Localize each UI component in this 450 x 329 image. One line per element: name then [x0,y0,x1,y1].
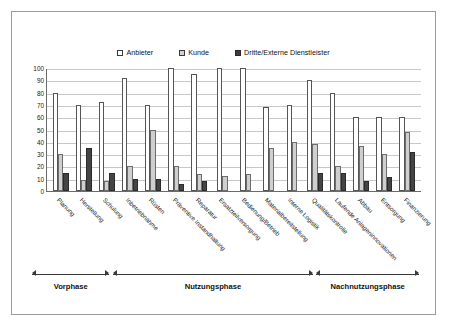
x-tick: Herstellung [71,195,94,273]
x-tick-label: Finanzierung [403,197,433,227]
y-tick-60: 60 [37,115,44,121]
x-tick: Inbetriebnahme [118,195,141,273]
phase-arrow-right-icon [415,270,419,276]
phase-label: Vorphase [54,282,88,291]
y-tick-0: 0 [40,189,44,195]
x-tick: Planung [48,195,71,273]
phase-arrow-left-icon [316,270,320,276]
phase-line [316,274,419,275]
bar-group [118,69,141,191]
bar-anbieter [217,68,222,191]
x-tick: Schulung [94,195,117,273]
bar-group [327,69,350,191]
y-axis-tick-labels: 1009080706050403020100 [20,69,44,192]
y-tick-100: 100 [33,66,44,72]
bar-group [95,69,118,191]
y-tick-50: 50 [37,127,44,133]
phase-line [32,274,109,275]
bar-group [142,69,165,191]
y-tick-30: 30 [37,152,44,158]
bar-dritte-externe-dienstleister [410,152,415,191]
x-tick: Abbau [349,195,372,273]
phase-label: Nachnutzungsphase [331,282,405,291]
y-tick-40: 40 [37,140,44,146]
bar-group [211,69,234,191]
legend-label-dritte: Dritte/Externe Dienstleister [244,48,329,57]
bar-groups [47,69,421,191]
legend-item-dritte: Dritte/Externe Dienstleister [235,48,329,57]
legend-swatch-kunde [179,50,185,56]
phase-arrow-right-icon [309,270,313,276]
bar-group [165,69,188,191]
legend-swatch-anbieter [117,50,123,56]
bar-group [280,69,303,191]
phase-arrow-left-icon [113,270,117,276]
phase-labels: VorphaseNutzungsphaseNachnutzungsphase [32,282,419,294]
x-tick: Laufende Anlageninnovationen [326,195,349,273]
bar-dritte-externe-dienstleister [179,184,184,191]
bar-kunde [292,142,297,191]
x-tick: Rüsten [141,195,164,273]
bar-group [72,69,95,191]
chart-frame: Anbieter Kunde Dritte/Externe Dienstleis… [11,11,436,315]
x-tick: Präventive Instandhaltung [164,195,187,273]
bar-group [303,69,326,191]
bar-dritte-externe-dienstleister [387,177,392,191]
bar-kunde [246,174,251,191]
y-tick-70: 70 [37,103,44,109]
y-tick-20: 20 [37,164,44,170]
phase-arrows [32,270,419,279]
x-tick: Entsorgung [373,195,396,273]
bar-kunde [269,148,274,191]
bar-kunde [222,176,227,191]
phase-label: Nutzungsphase [185,282,242,291]
x-tick: Finanzierung [396,195,419,273]
bar-group [257,69,280,191]
bar-dritte-externe-dienstleister [86,148,91,191]
x-tick: Materialbereitstellung [257,195,280,273]
bar-dritte-externe-dienstleister [202,181,207,191]
x-tick-label: Abbau [357,197,374,214]
x-tick: Bedienung/Betrieb [234,195,257,273]
y-tick-10: 10 [37,176,44,182]
bar-group [234,69,257,191]
legend-label-anbieter: Anbieter [126,48,153,57]
bar-dritte-externe-dienstleister [109,173,114,191]
bar-anbieter [240,68,245,191]
phase-line [113,274,312,275]
bar-dritte-externe-dienstleister [133,179,138,191]
legend-label-kunde: Kunde [188,48,209,57]
legend-item-anbieter: Anbieter [117,48,153,57]
legend-swatch-dritte [235,50,241,56]
bar-group [49,69,72,191]
bar-dritte-externe-dienstleister [63,173,68,191]
x-tick: Reparatur [187,195,210,273]
phase-arrow-right-icon [105,270,109,276]
plot-canvas [46,69,421,192]
plot-area: 1009080706050403020100 PlanungHerstellun… [12,69,435,217]
x-tick: Qualitätskontrolle [303,195,326,273]
x-tick: Ersatzteilversorgung [210,195,233,273]
phase-arrow-left-icon [32,270,36,276]
bar-group [373,69,396,191]
bar-anbieter [76,105,81,191]
x-axis-tick-labels: PlanungHerstellungSchulungInbetriebnahme… [46,195,421,273]
bar-group [396,69,419,191]
bar-group [350,69,373,191]
bar-group [188,69,211,191]
y-tick-90: 90 [37,78,44,84]
bar-dritte-externe-dienstleister [341,173,346,191]
x-tick: Interne Logistik [280,195,303,273]
chart-legend: Anbieter Kunde Dritte/Externe Dienstleis… [12,48,435,57]
phase-axis: VorphaseNutzungsphaseNachnutzungsphase [32,270,419,306]
bar-dritte-externe-dienstleister [318,173,323,191]
bar-dritte-externe-dienstleister [364,181,369,191]
legend-item-kunde: Kunde [179,48,209,57]
y-tick-80: 80 [37,90,44,96]
bar-dritte-externe-dienstleister [156,179,161,191]
bar-anbieter [99,102,104,191]
